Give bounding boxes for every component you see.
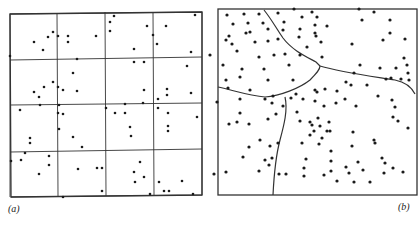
point <box>382 171 385 174</box>
point <box>101 190 104 193</box>
point <box>165 25 168 28</box>
point <box>302 166 305 169</box>
point <box>323 87 326 90</box>
point <box>390 98 393 101</box>
point <box>227 122 230 125</box>
point <box>143 89 146 92</box>
point <box>335 179 338 182</box>
point <box>394 66 397 69</box>
point <box>277 172 280 175</box>
point <box>29 142 32 145</box>
point <box>388 18 391 21</box>
point <box>76 58 79 61</box>
panel-b-regions <box>208 7 417 195</box>
point <box>270 156 273 159</box>
point <box>361 168 364 171</box>
point <box>157 107 160 110</box>
point <box>406 71 409 74</box>
point <box>347 171 350 174</box>
point <box>186 65 189 68</box>
point <box>238 75 241 78</box>
panel-b-points <box>208 7 410 183</box>
point <box>384 77 387 80</box>
point <box>388 31 391 34</box>
point <box>261 21 264 24</box>
point <box>381 38 384 41</box>
point <box>312 129 315 132</box>
point <box>276 141 279 144</box>
point <box>281 104 284 107</box>
point <box>167 130 170 133</box>
point <box>33 91 36 94</box>
point <box>181 180 184 183</box>
point <box>300 141 303 144</box>
point <box>235 49 238 52</box>
point <box>57 35 60 38</box>
point <box>396 119 399 122</box>
point <box>322 173 325 176</box>
point <box>349 83 352 86</box>
point <box>383 161 386 164</box>
point <box>325 129 328 132</box>
point <box>67 41 70 44</box>
point <box>48 155 51 158</box>
point <box>143 176 146 179</box>
point <box>360 18 363 21</box>
point <box>166 88 169 91</box>
point <box>319 40 322 43</box>
point <box>343 97 346 100</box>
point <box>274 112 277 115</box>
point <box>289 96 292 99</box>
point <box>20 159 23 162</box>
point <box>365 83 368 86</box>
point <box>308 133 311 136</box>
point <box>352 180 355 183</box>
point <box>393 105 396 108</box>
point <box>133 171 136 174</box>
point <box>109 21 112 24</box>
point <box>42 49 45 52</box>
point <box>298 27 301 30</box>
point <box>215 100 218 103</box>
panel-a-points <box>9 14 199 199</box>
point <box>300 15 303 18</box>
point <box>19 109 22 112</box>
point <box>276 11 279 14</box>
point <box>142 102 145 105</box>
point <box>48 164 51 167</box>
grid-line <box>10 12 202 14</box>
point <box>284 172 287 175</box>
point <box>327 120 330 123</box>
point <box>244 31 247 34</box>
point <box>212 172 215 175</box>
point <box>372 138 375 141</box>
point <box>96 167 99 170</box>
point <box>224 38 227 41</box>
point <box>166 94 169 97</box>
point <box>10 160 13 163</box>
point <box>266 78 269 81</box>
point <box>67 35 70 38</box>
point <box>39 104 42 107</box>
point <box>357 7 360 10</box>
point <box>95 35 98 38</box>
point <box>133 48 136 51</box>
point <box>38 96 41 99</box>
point <box>315 90 318 93</box>
point <box>77 168 80 171</box>
point <box>57 86 60 89</box>
point <box>320 136 323 139</box>
point <box>192 193 195 196</box>
point <box>152 34 155 37</box>
point <box>266 39 269 42</box>
point <box>139 161 142 164</box>
point <box>114 112 117 115</box>
point <box>266 27 269 30</box>
point <box>372 10 375 13</box>
point <box>263 158 266 161</box>
point <box>268 144 271 147</box>
point <box>258 138 261 141</box>
point <box>380 156 383 159</box>
point <box>314 34 317 37</box>
point <box>270 101 273 104</box>
